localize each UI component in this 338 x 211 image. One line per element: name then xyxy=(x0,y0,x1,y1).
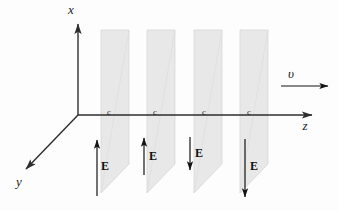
y-axis-label: y xyxy=(14,174,22,189)
field-label-2: E xyxy=(149,149,157,163)
velocity-label: υ xyxy=(288,66,294,81)
wavefront-speed-label-2: c xyxy=(153,107,157,117)
z-axis-label: z xyxy=(301,118,307,133)
field-label-4: E xyxy=(250,159,258,173)
diagram-svg: x y z υ c c c c E E E E xyxy=(0,0,338,211)
x-axis-label: x xyxy=(67,2,74,17)
field-label-3: E xyxy=(195,146,203,160)
wavefront-speed-label-4: c xyxy=(247,107,251,117)
y-axis xyxy=(26,115,78,169)
wavefront-speed-label-1: c xyxy=(107,107,111,117)
wavefront-speed-label-3: c xyxy=(202,107,206,117)
field-label-1: E xyxy=(101,159,109,173)
physics-diagram-canvas: x y z υ c c c c E E E E xyxy=(0,0,338,211)
wavefront-planes xyxy=(101,30,268,193)
